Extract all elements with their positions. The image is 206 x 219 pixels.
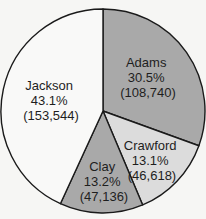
slice-label-crawford: Crawford 13.1% (46,618) xyxy=(124,138,180,183)
pie-chart: Adams 30.5% (108,740) Crawford 13.1% (46… xyxy=(0,0,206,219)
slice-label-jackson: Jackson 43.1% (153,544) xyxy=(23,78,79,123)
slice-label-adams: Adams 30.5% (108,740) xyxy=(120,55,176,100)
